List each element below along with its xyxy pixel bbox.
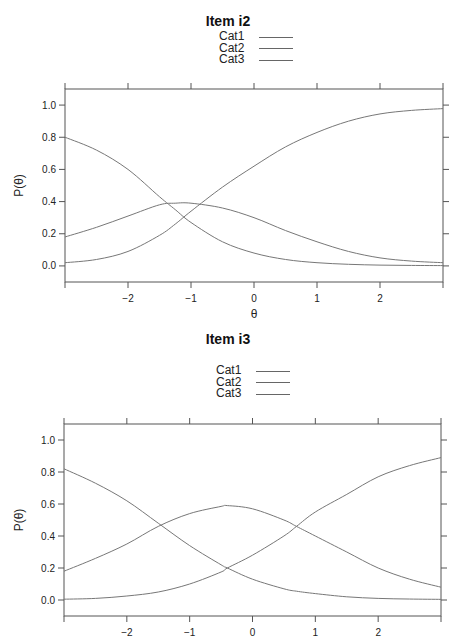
curve-cat1 [65, 137, 443, 265]
x-tick-label: 2 [377, 293, 383, 304]
y-tick-label: 0.6 [41, 499, 55, 510]
x-tick-label: 0 [251, 293, 257, 304]
y-tick-label: 0.0 [42, 260, 56, 271]
x-tick-label: 1 [314, 293, 320, 304]
y-tick-label: 0.8 [41, 467, 55, 478]
y-tick-label: 0.2 [41, 563, 55, 574]
y-tick-label: 1.0 [41, 435, 55, 446]
y-tick-label: 0.2 [42, 228, 56, 239]
y-tick-label: 1.0 [42, 100, 56, 111]
x-tick-label: −2 [122, 293, 134, 304]
y-tick-label: 0.0 [41, 595, 55, 606]
x-axis-title: θ [251, 307, 258, 321]
curve-cat3 [64, 458, 441, 600]
curve-cat3 [65, 109, 443, 263]
y-tick-label: 0.4 [41, 531, 55, 542]
y-axis-title: P(θ) [12, 509, 26, 532]
curve-cat2 [64, 505, 441, 587]
x-tick-label: 2 [375, 627, 381, 638]
plot-frame [64, 424, 441, 616]
curve-cat1 [64, 469, 441, 600]
y-tick-label: 0.8 [42, 132, 56, 143]
y-tick-label: 0.4 [42, 196, 56, 207]
y-axis-title: P(θ) [12, 174, 26, 197]
x-tick-label: −1 [185, 293, 197, 304]
x-tick-label: −2 [121, 627, 133, 638]
plot-canvas: −2−10120.00.20.40.60.81.0P(θ)θ−2−10120.0… [0, 0, 456, 639]
x-tick-label: 0 [250, 627, 256, 638]
x-tick-label: 1 [313, 627, 319, 638]
x-tick-label: −1 [184, 627, 196, 638]
y-tick-label: 0.6 [42, 164, 56, 175]
